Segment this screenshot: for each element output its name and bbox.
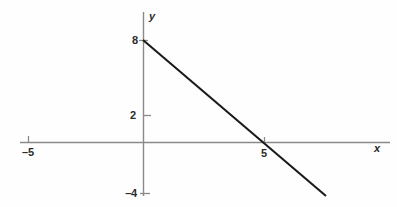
- y-tick-label-2: 2: [124, 110, 136, 121]
- x-tick-label-5: 5: [258, 148, 270, 159]
- linear-function-graph: 8 2 –4 –5 5 y x: [0, 0, 397, 207]
- line-series: [143, 40, 326, 196]
- x-axis-label: x: [374, 143, 380, 154]
- y-axis-label: y: [149, 11, 155, 22]
- y-tick-label-8: 8: [126, 35, 138, 46]
- plot-canvas: [0, 0, 397, 207]
- x-tick-label-minus5: –5: [18, 147, 38, 158]
- y-tick-label-minus4: –4: [120, 188, 137, 199]
